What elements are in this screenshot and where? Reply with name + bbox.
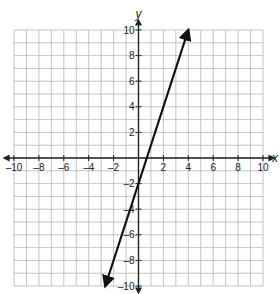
x-tick-label: 10	[257, 162, 269, 173]
x-tick-label: –4	[83, 162, 95, 173]
y-axis-label: y	[135, 7, 143, 21]
x-tick-label: 8	[235, 162, 241, 173]
x-tick-label: –10	[6, 162, 23, 173]
x-axis-label: x	[271, 151, 279, 165]
y-tick-label: 2	[129, 127, 135, 138]
axes	[4, 20, 274, 293]
x-tick-label: 2	[161, 162, 167, 173]
y-tick-label: –6	[123, 229, 135, 240]
y-tick-label: –2	[123, 178, 135, 189]
y-tick-label: –8	[123, 255, 135, 266]
coordinate-plane: –10–8–6–4–2246810108642–2–4–6–8–10 x y	[0, 0, 280, 294]
y-tick-label: 8	[129, 50, 135, 61]
x-tick-label: –8	[33, 162, 45, 173]
y-tick-label: 4	[129, 101, 135, 112]
y-tick-label: 10	[123, 25, 135, 36]
y-tick-label: –10	[118, 281, 135, 292]
x-tick-label: –6	[58, 162, 70, 173]
x-tick-label: –2	[108, 162, 120, 173]
y-tick-label: 6	[129, 76, 135, 87]
x-tick-label: 6	[210, 162, 216, 173]
x-tick-label: 4	[186, 162, 192, 173]
